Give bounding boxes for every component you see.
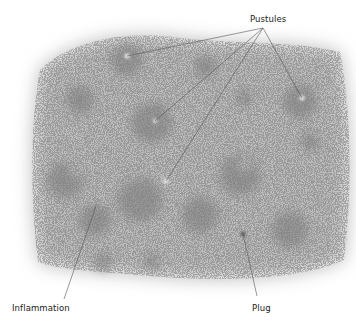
skin-illustration <box>0 0 356 329</box>
label-pustules: Pustules <box>250 14 286 24</box>
label-inflammation: Inflammation <box>12 303 70 313</box>
label-plug: Plug <box>252 303 271 313</box>
